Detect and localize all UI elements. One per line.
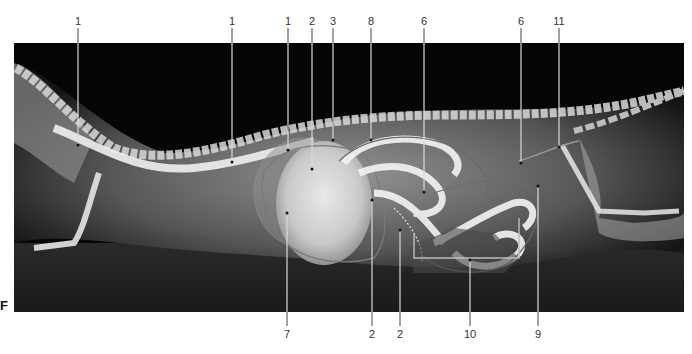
label-bottom-2a: 2 — [369, 328, 375, 340]
label-bottom-2b: 2 — [397, 328, 403, 340]
label-top-2: 2 — [309, 15, 315, 27]
label-bottom-10: 10 — [464, 328, 476, 340]
panel-letter: F — [0, 298, 8, 313]
anatomical-figure: 1 1 1 2 3 8 6 6 11 7 2 2 10 9 F — [0, 0, 692, 354]
label-top-8: 8 — [368, 15, 374, 27]
label-top-6b: 6 — [518, 15, 524, 27]
label-top-3: 3 — [330, 15, 336, 27]
label-top-6a: 6 — [421, 15, 427, 27]
label-bottom-7: 7 — [284, 328, 290, 340]
label-top-1a: 1 — [75, 15, 81, 27]
radiograph-image — [14, 43, 684, 312]
label-top-1c: 1 — [285, 15, 291, 27]
label-top-11: 11 — [553, 15, 564, 27]
label-top-1b: 1 — [229, 15, 235, 27]
label-bottom-9: 9 — [535, 328, 541, 340]
